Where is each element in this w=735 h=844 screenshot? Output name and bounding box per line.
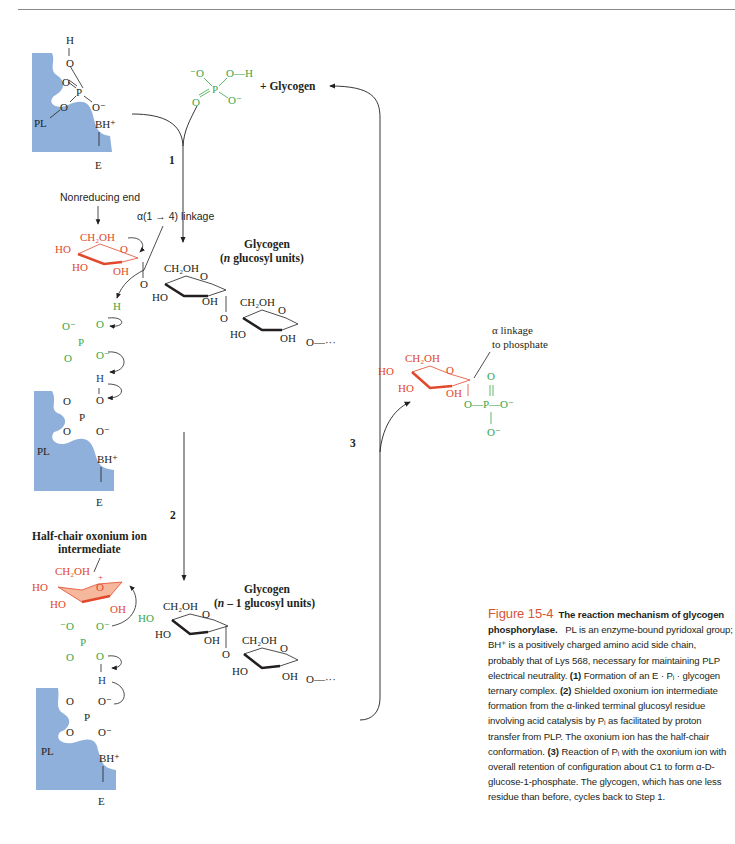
svg-text:OH: OH: [110, 603, 126, 615]
p-atom: P: [76, 86, 82, 98]
svg-text:P: P: [78, 336, 84, 348]
caption-step-1-marker: (1): [570, 670, 581, 681]
figure-caption: Figure 15-4 The reaction mechanism of gl…: [488, 606, 733, 805]
svg-text:H: H: [113, 300, 121, 312]
glycogen-n-title: Glycogen: [244, 238, 291, 251]
svg-text:OH: OH: [446, 387, 462, 399]
enzyme-pocket-1: H O O P O⁻ O PL BH⁺ E: [32, 34, 116, 171]
oxonium-ion-intermediate: CH₂OH HO HO OH O +: [32, 565, 126, 615]
svg-text:O: O: [63, 395, 71, 407]
svg-text:BH⁺: BH⁺: [99, 752, 120, 764]
svg-text:CH₂OH: CH₂OH: [242, 634, 277, 646]
figure-number: Figure 15-4: [488, 606, 553, 621]
glycogen-n1-residue-b: CH₂OH O HO OH O O—···: [222, 634, 336, 685]
glycogen-n-minus-1-title: Glycogen: [244, 583, 291, 596]
svg-text:OH: OH: [282, 670, 298, 682]
svg-text:H: H: [98, 674, 106, 686]
svg-text:OH: OH: [204, 634, 220, 646]
svg-text:O: O: [222, 648, 230, 660]
svg-text:O⁻: O⁻: [96, 620, 110, 632]
bh-plus-label: BH⁺: [95, 118, 116, 130]
o-double-atom: O: [62, 76, 70, 88]
svg-text:HO: HO: [232, 665, 248, 677]
caption-step-3-marker: (3): [547, 746, 558, 757]
svg-text:O: O: [120, 243, 128, 255]
svg-text:O⁻: O⁻: [96, 425, 110, 437]
phosphate-proton-relay-2: ⁻O O⁻ P O O HO H: [60, 586, 154, 704]
svg-text:O: O: [140, 278, 148, 290]
svg-text:O: O: [63, 425, 71, 437]
svg-text:P: P: [79, 411, 85, 423]
svg-text:OH: OH: [202, 295, 218, 307]
svg-text:O⁻: O⁻: [98, 726, 112, 738]
svg-text:O: O: [96, 318, 104, 330]
terminal-glucosyl-residue: CH₂OH HO HO OH O: [55, 231, 143, 277]
svg-text:P: P: [80, 636, 86, 648]
svg-text:HO: HO: [72, 261, 88, 273]
svg-text:CH₂OH: CH₂OH: [163, 600, 198, 612]
svg-text:CH₂OH: CH₂OH: [405, 352, 440, 364]
svg-text:O: O: [192, 96, 200, 108]
svg-text:HO: HO: [155, 628, 171, 640]
svg-text:O: O: [96, 394, 104, 406]
svg-text:O⁻: O⁻: [98, 695, 112, 707]
svg-text:O: O: [446, 364, 454, 376]
svg-text:CH₂OH: CH₂OH: [80, 231, 115, 243]
svg-text:HO: HO: [55, 243, 71, 255]
half-chair-label-line2: intermediate: [58, 543, 121, 555]
svg-text:O: O: [487, 370, 495, 382]
alpha-phosphate-label-line1: α linkage: [492, 324, 533, 336]
svg-text:O—P—O⁻: O—P—O⁻: [464, 398, 514, 410]
o-pl-atom: O: [60, 101, 68, 113]
caption-step-2-marker: (2): [560, 685, 571, 696]
svg-text:CH₂OH: CH₂OH: [55, 565, 90, 577]
phosphate-proton-relay-1: H O⁻ O P O O⁻ H: [62, 270, 144, 398]
inorganic-phosphate: ⁻O P O—H O O⁻: [190, 67, 253, 108]
svg-text:CH₂OH: CH₂OH: [164, 262, 199, 274]
glycogen-residue-2: CH₂OH O HO OH O: [140, 262, 226, 307]
svg-text:O⁻: O⁻: [228, 94, 242, 106]
step-1-label: 1: [169, 154, 175, 166]
svg-text:OH: OH: [113, 265, 129, 277]
glycogen-product-label: + Glycogen: [260, 80, 316, 93]
enzyme-pocket-3: O O⁻ P O O⁻ PL BH⁺ E: [36, 688, 120, 807]
svg-text:E: E: [98, 795, 105, 807]
glycogen-n-subtitle: (n glucosyl units): [220, 252, 304, 265]
svg-text:BH⁺: BH⁺: [97, 453, 118, 465]
o-minus-atom: O⁻: [92, 101, 106, 113]
svg-text:O: O: [66, 726, 74, 738]
svg-text:HO: HO: [398, 382, 414, 394]
enzyme-label: E: [95, 159, 102, 171]
svg-text:HO: HO: [152, 291, 168, 303]
svg-text:O: O: [200, 270, 208, 282]
svg-text:⁻O: ⁻O: [190, 67, 204, 79]
svg-text:HO: HO: [378, 365, 394, 377]
alpha-1-4-linkage-label: α(1 → 4) linkage: [137, 210, 214, 222]
svg-text:HO: HO: [50, 598, 66, 610]
svg-text:OH: OH: [280, 332, 296, 344]
svg-text:⁻O: ⁻O: [60, 620, 74, 632]
o-atom: O: [66, 57, 74, 69]
svg-text:O: O: [202, 608, 210, 620]
svg-text:PL: PL: [41, 745, 54, 757]
svg-text:O—H: O—H: [226, 67, 253, 79]
half-chair-label-line1: Half-chair oxonium ion: [32, 530, 147, 542]
svg-text:HO: HO: [32, 581, 48, 593]
svg-text:O: O: [96, 650, 104, 662]
svg-text:HO: HO: [230, 328, 246, 340]
svg-text:H: H: [96, 372, 104, 384]
glycogen-n1-chain-continuation: O—···: [306, 673, 336, 685]
svg-text:O: O: [66, 695, 74, 707]
svg-text:P: P: [212, 83, 218, 95]
svg-text:P: P: [84, 711, 90, 723]
glycogen-chain-continuation: O—···: [306, 336, 336, 348]
svg-text:O: O: [278, 304, 286, 316]
pl-label: PL: [34, 117, 47, 129]
svg-text:O⁻: O⁻: [62, 320, 76, 332]
glycogen-residue-3: CH₂OH O HO OH O O—···: [220, 296, 336, 348]
svg-text:O⁻: O⁻: [487, 426, 501, 438]
svg-text:E: E: [96, 496, 103, 508]
svg-text:PL: PL: [37, 445, 50, 457]
svg-text:O⁻: O⁻: [96, 349, 110, 361]
svg-text:O: O: [280, 642, 288, 654]
